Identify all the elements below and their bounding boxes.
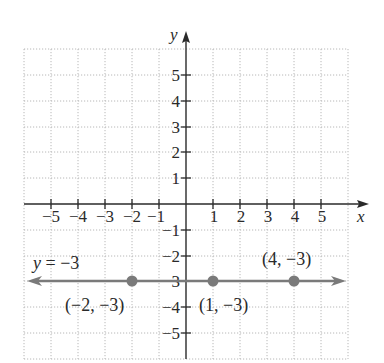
coordinate-plane: −5 −4 −3 −2 −1 1 2 3 4 5 5 4 3 2 1 −1 −2… xyxy=(0,0,384,363)
point-4-neg3 xyxy=(289,276,300,287)
point-1-neg3 xyxy=(208,276,219,287)
y-tick-label: −4 xyxy=(162,298,181,317)
y-tick-label: 3 xyxy=(172,118,181,137)
x-tick-labels: −5 −4 −3 −2 −1 1 2 3 4 5 xyxy=(42,207,326,226)
point-label-4-neg3: (4, −3) xyxy=(262,249,311,270)
x-tick-label: 5 xyxy=(318,207,327,226)
point-label-1-neg3: (1, −3) xyxy=(199,295,248,316)
x-axis-label: x xyxy=(356,207,365,226)
y-tick-label: −2 xyxy=(162,247,180,266)
x-tick-label: 3 xyxy=(264,207,273,226)
equation-label: y = −3 xyxy=(31,253,79,273)
y-axis xyxy=(182,31,190,359)
y-tick-label: −1 xyxy=(162,221,180,240)
x-tick-label: −2 xyxy=(123,207,141,226)
x-tick-label: 1 xyxy=(210,207,219,226)
x-tick-label: 4 xyxy=(291,207,300,226)
y-tick-label: 4 xyxy=(172,92,181,111)
equation-variable: y xyxy=(31,253,41,273)
point-label-neg2-neg3: (−2, −3) xyxy=(65,295,124,316)
x-tick-label: 2 xyxy=(237,207,246,226)
y-axis-label: y xyxy=(168,25,178,44)
equation-rest: = −3 xyxy=(41,253,79,273)
y-tick-label: 5 xyxy=(172,66,181,85)
y-tick-label: −5 xyxy=(162,324,180,343)
x-tick-label: −4 xyxy=(69,207,88,226)
y-tick-label: 1 xyxy=(172,169,181,188)
point-neg2-neg3 xyxy=(127,276,138,287)
y-tick-label: 2 xyxy=(172,143,181,162)
x-tick-label: −5 xyxy=(42,207,60,226)
x-tick-label: −3 xyxy=(96,207,114,226)
